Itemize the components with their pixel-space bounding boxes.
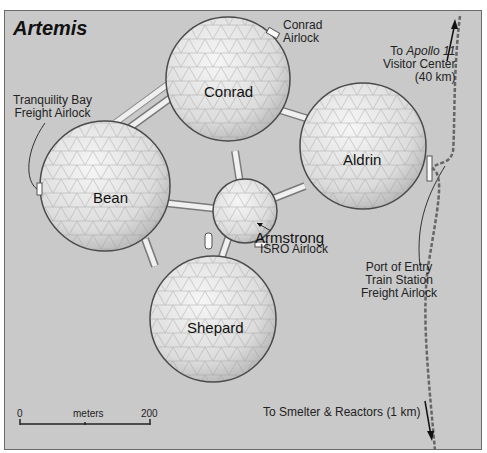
map-title: Artemis bbox=[13, 17, 87, 40]
port-of-entry-label: Port of Entry Train Station Freight Airl… bbox=[361, 261, 437, 300]
map-frame: Artemis Conrad Aldrin Bean Armstrong She… bbox=[4, 10, 482, 450]
smelter-reactors-label: To Smelter & Reactors (1 km) bbox=[263, 406, 420, 419]
dome-aldrin bbox=[300, 83, 426, 209]
dome-label-shepard: Shepard bbox=[187, 319, 244, 336]
isro-airlock-label: ISRO Airlock bbox=[260, 243, 328, 256]
scale-start: 0 bbox=[17, 407, 23, 420]
dome-bean bbox=[40, 121, 170, 251]
dome-label-aldrin: Aldrin bbox=[343, 151, 381, 168]
scale-unit: meters bbox=[73, 407, 104, 420]
apollo-visitor-center-label: To Apollo 11 Visitor Center (40 km) bbox=[383, 45, 455, 84]
dome-label-bean: Bean bbox=[93, 189, 128, 206]
tranquility-bay-label: Tranquility Bay Freight Airlock bbox=[13, 94, 92, 120]
scale-end: 200 bbox=[141, 407, 158, 420]
dome-label-conrad: Conrad bbox=[204, 83, 253, 100]
conrad-airlock-label: Conrad Airlock bbox=[283, 19, 322, 45]
